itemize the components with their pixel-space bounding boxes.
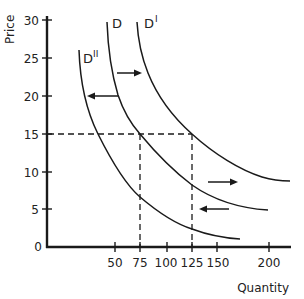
- arrow-left-lower: [199, 206, 229, 213]
- demand-shift-chart: Price 30 25 20 15 10 5 0 50 75 100 125 1…: [0, 0, 304, 299]
- svg-text:75: 75: [132, 256, 147, 270]
- reference-lines: [48, 134, 192, 246]
- demand-curve-d2: [79, 50, 240, 239]
- svg-text:125: 125: [181, 256, 204, 270]
- curve-label-d2: D II: [83, 49, 98, 66]
- svg-text:20: 20: [24, 90, 39, 104]
- x-axis-title: Quantity: [237, 281, 289, 295]
- x-tick-labels: 50 75 100 125 150 200: [107, 256, 280, 270]
- curve-label-d: D: [112, 16, 122, 31]
- arrow-left-upper: [87, 93, 118, 100]
- arrow-right-upper: [117, 70, 142, 77]
- y-tick-labels: 30 25 20 15 10 5 0: [24, 14, 42, 254]
- arrow-right-lower: [208, 179, 238, 186]
- y-axis-title: Price: [3, 15, 17, 44]
- svg-text:0: 0: [34, 240, 42, 254]
- svg-text:I: I: [155, 14, 158, 24]
- svg-text:15: 15: [24, 128, 39, 142]
- svg-text:II: II: [93, 49, 98, 59]
- svg-text:10: 10: [24, 166, 39, 180]
- svg-text:200: 200: [258, 256, 281, 270]
- svg-text:D: D: [83, 51, 93, 66]
- svg-text:D: D: [144, 16, 154, 31]
- svg-text:D: D: [112, 16, 122, 31]
- svg-text:5: 5: [31, 203, 39, 217]
- svg-text:50: 50: [107, 256, 122, 270]
- svg-text:100: 100: [155, 256, 178, 270]
- svg-text:30: 30: [24, 14, 39, 28]
- demand-curve-d: [107, 22, 268, 210]
- svg-text:25: 25: [24, 52, 39, 66]
- svg-text:150: 150: [207, 256, 230, 270]
- curve-label-d1: D I: [144, 14, 158, 31]
